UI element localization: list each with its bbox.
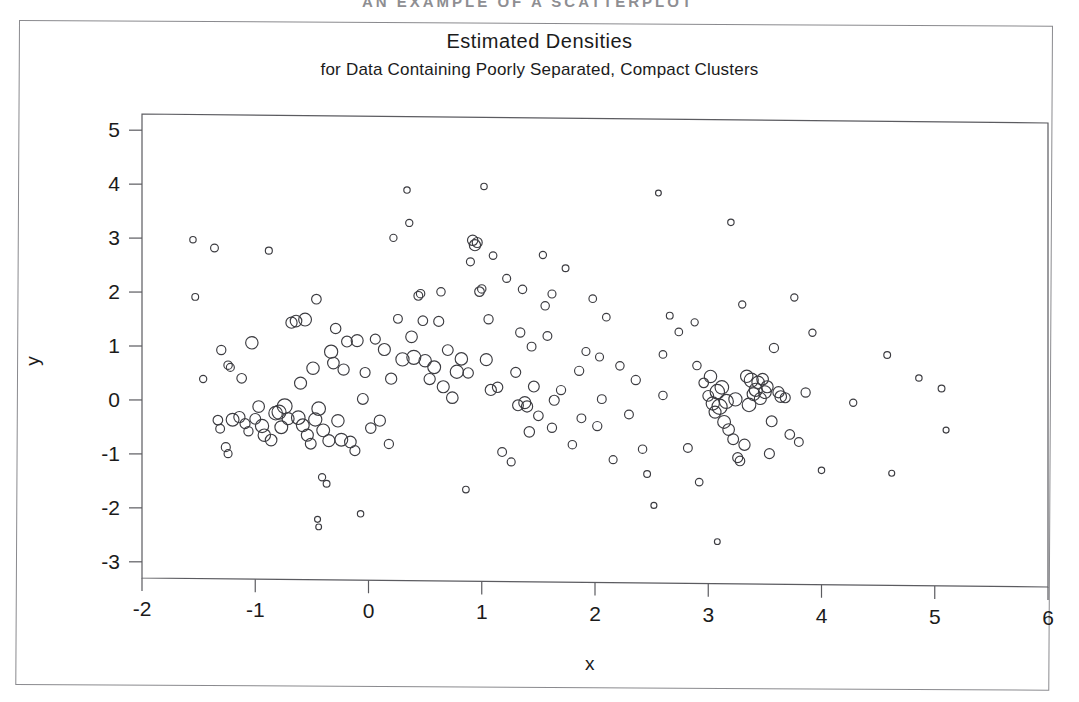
data-point: [534, 411, 544, 421]
data-point: [850, 399, 857, 406]
data-point: [644, 471, 651, 478]
data-point: [709, 406, 721, 418]
data-point: [651, 502, 657, 508]
data-point: [357, 394, 368, 405]
data-point: [516, 328, 525, 337]
x-tick-label: -2: [133, 597, 152, 620]
data-point: [556, 385, 565, 394]
data-point: [323, 435, 335, 447]
x-tick-label: 2: [589, 602, 601, 625]
data-point: [378, 343, 390, 355]
data-point: [577, 414, 586, 423]
y-axis-title: y: [22, 356, 44, 366]
data-point: [693, 361, 701, 369]
data-point: [213, 415, 223, 425]
data-point: [769, 343, 778, 352]
data-point: [295, 377, 307, 389]
data-point: [547, 423, 556, 432]
data-point: [791, 294, 798, 301]
y-tick-label: 5: [108, 118, 120, 141]
data-point: [699, 378, 709, 388]
data-point: [597, 395, 606, 404]
data-point: [794, 438, 803, 447]
y-tick-label: -1: [101, 442, 120, 465]
data-point: [603, 313, 611, 321]
data-point: [447, 392, 459, 404]
data-point: [299, 313, 312, 326]
x-tick-label: 1: [476, 600, 488, 623]
data-point: [485, 384, 496, 395]
data-point: [312, 294, 322, 304]
data-point: [360, 368, 370, 378]
data-point: [719, 394, 733, 408]
data-point: [384, 439, 393, 448]
data-point: [416, 290, 424, 298]
data-point: [463, 486, 470, 493]
data-point: [543, 332, 552, 341]
data-point: [733, 453, 743, 463]
data-point: [735, 456, 745, 466]
data-point: [801, 388, 810, 397]
data-point: [366, 423, 376, 433]
data-point: [370, 334, 380, 344]
data-point: [659, 391, 667, 399]
data-point: [764, 449, 774, 459]
data-point: [695, 478, 703, 486]
scanned-page: AN EXAMPLE OF A SCATTERPLOT Estimated De…: [0, 0, 1079, 702]
data-point: [593, 421, 602, 430]
data-point: [455, 353, 467, 365]
data-point: [656, 190, 662, 196]
data-point: [226, 363, 234, 371]
data-point: [350, 446, 360, 456]
scatter-plot-canvas: -2-10123456-3-2-1012345: [0, 0, 1079, 702]
data-point: [357, 511, 363, 517]
data-point: [596, 353, 604, 361]
data-point: [424, 373, 435, 384]
data-point: [549, 395, 559, 405]
data-point: [809, 329, 816, 336]
data-point: [330, 323, 340, 333]
data-point: [250, 413, 261, 424]
x-tick-label: 0: [363, 599, 375, 622]
scatter-plot: -2-10123456-3-2-1012345 y x: [0, 0, 1079, 702]
data-point: [475, 287, 485, 297]
data-point: [246, 337, 258, 349]
data-point: [351, 335, 363, 347]
data-point: [728, 219, 734, 225]
data-point: [255, 419, 268, 432]
data-point: [484, 315, 493, 324]
data-point: [307, 362, 319, 374]
x-tick-label: 3: [702, 603, 714, 626]
data-point: [715, 381, 729, 395]
data-point: [386, 373, 397, 384]
data-point: [316, 524, 322, 530]
data-point: [683, 444, 692, 453]
data-point: [766, 416, 777, 427]
data-point: [609, 456, 617, 464]
y-tick-label: -2: [101, 496, 120, 519]
data-point: [265, 247, 272, 254]
data-point: [275, 421, 288, 434]
data-point: [938, 385, 945, 392]
data-point: [666, 312, 673, 319]
data-point: [406, 331, 418, 343]
data-point: [884, 352, 891, 359]
data-point: [518, 285, 526, 293]
data-point: [511, 367, 521, 377]
data-point: [253, 401, 265, 413]
data-point: [418, 316, 428, 326]
y-tick-label: -3: [101, 550, 120, 573]
data-point: [315, 516, 321, 522]
data-point: [625, 410, 634, 419]
data-point: [404, 187, 410, 193]
data-point: [328, 357, 340, 369]
data-point: [481, 183, 487, 189]
x-tick-label: 4: [816, 604, 828, 627]
data-point: [943, 427, 949, 433]
data-point: [325, 345, 338, 358]
data-point: [338, 364, 349, 375]
data-point: [442, 345, 453, 356]
data-point: [437, 288, 445, 296]
data-point: [211, 244, 219, 252]
data-point: [394, 314, 403, 323]
